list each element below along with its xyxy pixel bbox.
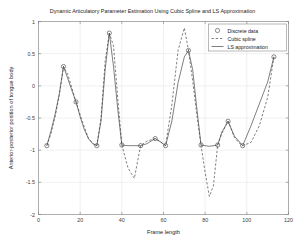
x-tick-label: 60 (161, 217, 167, 223)
chart-plot: 02040608010012010.50-0.5-1-1.5-2 Discret… (0, 0, 305, 251)
y-tick-label: -1 (30, 147, 35, 153)
legend-label: LS approximation (228, 44, 268, 50)
x-axis-title: Frame length (147, 229, 180, 235)
y-tick-label: 0.5 (28, 51, 36, 57)
legend-label: Cubic spline (228, 36, 256, 42)
x-tick-label: 120 (284, 217, 293, 223)
data-series (47, 28, 274, 197)
y-tick-label: -1.5 (26, 179, 35, 185)
figure-canvas: Dynamic Articulatory Parameter Estimatio… (0, 0, 305, 251)
x-tick-label: 100 (242, 217, 251, 223)
x-tick-label: 80 (202, 217, 208, 223)
y-tick-label: 0 (32, 83, 35, 89)
series-cubic-spline (47, 28, 274, 197)
y-tick-label: -0.5 (26, 115, 35, 121)
x-tick-label: 0 (37, 217, 40, 223)
y-axis-title: Anterior-posterior position of tongue bo… (8, 66, 14, 169)
legend-box: Discrete dataCubic splineLS approximatio… (209, 24, 287, 51)
legend-label: Discrete data (228, 28, 259, 34)
x-tick-label: 20 (77, 217, 83, 223)
x-tick-label: 40 (119, 217, 125, 223)
y-tick-label: -2 (30, 212, 35, 218)
y-tick-label: 1 (32, 19, 35, 25)
